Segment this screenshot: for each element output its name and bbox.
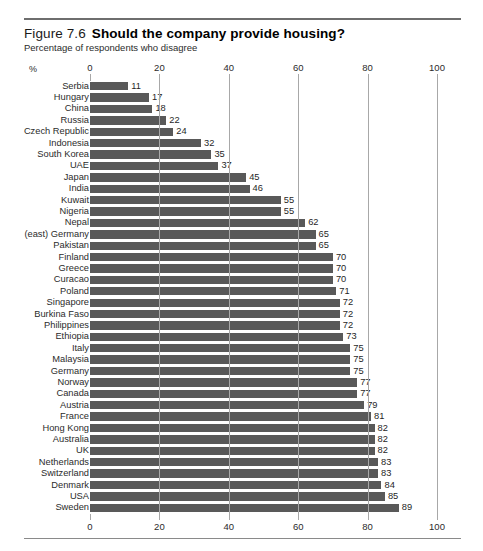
bar-value-label: 22 [169, 116, 179, 125]
bar-value-label: 75 [353, 344, 363, 353]
gridline [159, 81, 160, 514]
bar [90, 287, 336, 295]
x-tick-label-top: 20 [154, 62, 165, 73]
bar-row: Netherlands83 [0, 457, 483, 468]
category-label: Sweden [55, 503, 89, 512]
bar [90, 207, 281, 215]
bar-value-label: 77 [360, 390, 370, 399]
bar [90, 355, 350, 363]
category-label: Denmark [51, 481, 89, 490]
bar [90, 264, 333, 272]
bar-value-label: 32 [204, 139, 214, 148]
category-label: Finland [59, 253, 90, 262]
bar-value-label: 83 [381, 469, 391, 478]
bar-value-label: 62 [308, 219, 318, 228]
bar-row: Pakistan65 [0, 241, 483, 252]
category-label: UAE [70, 162, 89, 171]
bar-row: UK82 [0, 446, 483, 457]
category-label: Russia [61, 116, 89, 125]
category-label: USA [70, 492, 89, 501]
x-tick-label-top: 0 [87, 62, 92, 73]
bar-row: Indonesia32 [0, 138, 483, 149]
bar-value-label: 79 [367, 401, 377, 410]
category-label: Curacao [54, 276, 89, 285]
bar [90, 162, 218, 170]
gridline [229, 81, 230, 514]
bar-row: India46 [0, 184, 483, 195]
bar [90, 333, 343, 341]
category-label: Czech Republic [24, 127, 89, 136]
bar-row: Malaysia75 [0, 354, 483, 365]
bar [90, 435, 375, 443]
bar [90, 82, 128, 90]
category-label: Serbia [62, 82, 89, 91]
x-tick-mark-top [229, 74, 230, 81]
category-label: India [69, 184, 89, 193]
category-label: Pakistan [53, 241, 89, 250]
x-tick-mark-top [437, 74, 438, 81]
category-label: Greece [59, 264, 90, 273]
category-label: Philippines [44, 321, 89, 330]
category-label: South Korea [37, 150, 89, 159]
category-label: Indonesia [49, 139, 89, 148]
bar-row: Philippines72 [0, 320, 483, 331]
bar-value-label: 18 [155, 105, 165, 114]
category-label: Hong Kong [42, 424, 89, 433]
bar-row: USA85 [0, 491, 483, 502]
bar-chart-plot-area: Serbia11Hungary17China18Russia22Czech Re… [0, 81, 483, 514]
bar-value-label: 65 [319, 241, 329, 250]
category-label: Ethiopia [55, 333, 89, 342]
category-label: Austria [60, 401, 89, 410]
x-tick-label-bottom: 0 [87, 521, 92, 532]
figure-container: Figure 7.6Should the company provide hou… [0, 0, 483, 551]
top-divider [24, 18, 461, 20]
bar [90, 196, 281, 204]
x-axis-bottom: 020406080100 [0, 519, 483, 533]
bar-value-label: 71 [339, 287, 349, 296]
bar [90, 321, 340, 329]
x-tick-mark-top [90, 74, 91, 81]
category-label: Singapore [47, 298, 89, 307]
x-tick-label-bottom: 80 [362, 521, 373, 532]
bar-value-label: 72 [343, 321, 353, 330]
bar-row: Switzerland83 [0, 468, 483, 479]
bar-row: Hong Kong82 [0, 423, 483, 434]
figure-number: Figure 7.6 [24, 26, 86, 41]
bar-row: Ethiopia73 [0, 332, 483, 343]
bar-value-label: 35 [214, 150, 224, 159]
x-tick-label-bottom: 20 [154, 521, 165, 532]
bar [90, 219, 305, 227]
bar-row: Canada77 [0, 389, 483, 400]
x-tick-label-bottom: 60 [293, 521, 304, 532]
category-label: China [65, 105, 89, 114]
bar [90, 481, 381, 489]
bar [90, 458, 378, 466]
x-tick-label-top: 60 [293, 62, 304, 73]
category-label: (east) Germany [24, 230, 89, 239]
gridline [437, 81, 438, 514]
bar-row: Hungary17 [0, 92, 483, 103]
category-label: Netherlands [39, 458, 89, 467]
bar-value-label: 72 [343, 298, 353, 307]
x-tick-mark-top [159, 74, 160, 81]
x-tick-label-top: 40 [224, 62, 235, 73]
x-axis-top: 020406080100 [0, 62, 483, 76]
bar-value-label: 17 [152, 93, 162, 102]
bar-row: Nepal62 [0, 218, 483, 229]
category-label: Switzerland [41, 469, 89, 478]
bar-value-label: 55 [284, 196, 294, 205]
bar-row: Nigeria55 [0, 206, 483, 217]
bar-row: Australia82 [0, 434, 483, 445]
bar [90, 424, 375, 432]
bar [90, 378, 357, 386]
bar-row: UAE37 [0, 161, 483, 172]
bar-value-label: 85 [388, 492, 398, 501]
bar [90, 401, 364, 409]
bar-row: Denmark84 [0, 480, 483, 491]
bar-value-label: 75 [353, 355, 363, 364]
bar-row: Austria79 [0, 400, 483, 411]
x-tick-mark-bottom [368, 514, 369, 520]
category-label: Italy [72, 344, 89, 353]
figure-heading: Figure 7.6Should the company provide hou… [24, 24, 345, 42]
bar [90, 93, 149, 101]
